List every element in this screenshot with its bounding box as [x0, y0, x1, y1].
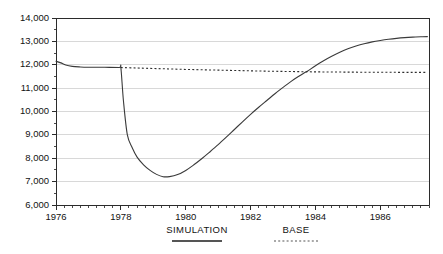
- y-axis-tick-label: 12,000: [20, 58, 49, 69]
- x-axis-tick-label: 1984: [305, 211, 326, 222]
- y-axis-tick-label: 8,000: [25, 152, 49, 163]
- series-line-base: [121, 68, 428, 73]
- x-axis-labels-group: 197619781980198219841986: [45, 211, 390, 222]
- y-axis-tick-label: 7,000: [25, 175, 49, 186]
- y-axis-tick-label: 9,000: [25, 128, 49, 139]
- x-axis-tick-label: 1980: [175, 211, 196, 222]
- y-axis-tick-label: 11,000: [21, 82, 49, 93]
- chart-container: 6,0007,0008,0009,00010,00011,00012,00013…: [0, 0, 443, 254]
- x-axis-tick-label: 1982: [240, 211, 261, 222]
- x-axis-ticks-group: [56, 205, 429, 210]
- legend-label-simulation: SIMULATION: [166, 224, 227, 235]
- chart-legend: SIMULATIONBASE: [166, 224, 318, 241]
- y-axis-labels-group: 6,0007,0008,0009,00010,00011,00012,00013…: [20, 12, 49, 210]
- series-line-simulation: [56, 37, 427, 177]
- x-axis-tick-label: 1978: [110, 211, 131, 222]
- x-axis-tick-label: 1976: [45, 211, 66, 222]
- gridlines-group: [56, 41, 429, 181]
- line-chart: 6,0007,0008,0009,00010,00011,00012,00013…: [0, 0, 443, 254]
- data-series-group: [56, 37, 427, 177]
- y-axis-tick-label: 10,000: [20, 105, 49, 116]
- y-axis-tick-label: 13,000: [20, 35, 49, 46]
- y-axis-ticks-group: [52, 18, 56, 205]
- legend-label-base: BASE: [283, 224, 310, 235]
- y-axis-tick-label: 6,000: [25, 199, 49, 210]
- y-axis-tick-label: 14,000: [20, 12, 49, 23]
- x-axis-tick-label: 1986: [370, 211, 391, 222]
